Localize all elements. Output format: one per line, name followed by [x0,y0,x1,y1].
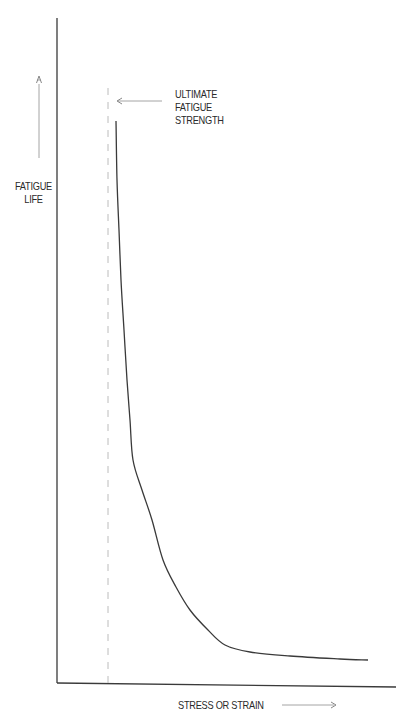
x-axis [57,683,396,687]
arrow-left-icon [117,98,162,104]
y-axis-label-line2: LIFE [15,193,52,206]
y-axis-label-line1: FATIGUE [15,180,52,193]
arrow-right-icon [282,702,336,708]
annotation-line2: FATIGUE [175,101,224,114]
ultimate-fatigue-strength-annotation: ULTIMATE FATIGUE STRENGTH [175,88,224,127]
annotation-line1: ULTIMATE [175,88,224,101]
x-axis-label: STRESS OR STRAIN [178,699,264,712]
y-axis-label: FATIGUE LIFE [15,180,52,206]
arrow-up-icon [37,76,42,158]
fatigue-curve [116,121,368,660]
annotation-line3: STRENGTH [175,114,224,127]
